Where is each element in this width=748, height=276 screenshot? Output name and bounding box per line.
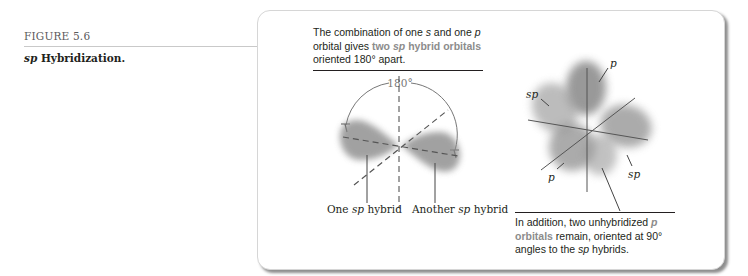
angle-arc-left (346, 83, 389, 125)
lbl-sp: sp (352, 203, 364, 215)
lbl-text: hybrid (470, 203, 508, 215)
note-text: In addition, two unhybridized (515, 216, 651, 228)
hl-text: orbitals (515, 230, 553, 242)
angle-label: 180° (387, 77, 412, 89)
sp-hybrid-lobe-left (340, 120, 398, 160)
sp-hybrid-lobe-right (402, 132, 460, 172)
leader-bottom-note (602, 168, 620, 211)
label-another-sp-hybrid: Another sp hybrid (411, 203, 508, 215)
lbl-text: hybrid (364, 203, 402, 215)
label-p-bottom: p (548, 171, 555, 183)
note-text: hybrids. (589, 243, 629, 255)
p-orbital-lobe-bottom (583, 135, 617, 175)
label-sp-left: sp (526, 88, 538, 100)
lbl-sp: sp (458, 203, 470, 215)
note-sp: sp (578, 243, 589, 255)
label-one-sp-hybrid: One sp hybrid (327, 203, 402, 215)
sp-hybrid-diagram: 180° One sp hybrid Another sp hybrid (327, 76, 508, 215)
hl-p: p (651, 216, 657, 228)
lbl-text: One (327, 203, 352, 215)
label-p-top: p (610, 57, 617, 69)
sp-plus-p-orbitals-diagram: p sp p sp (523, 57, 657, 211)
label-sp-right: sp (628, 168, 640, 180)
bottom-annotation: In addition, two unhybridized p orbitals… (515, 212, 675, 257)
lbl-text: Another (411, 203, 458, 215)
leader-sp-right (627, 155, 632, 166)
